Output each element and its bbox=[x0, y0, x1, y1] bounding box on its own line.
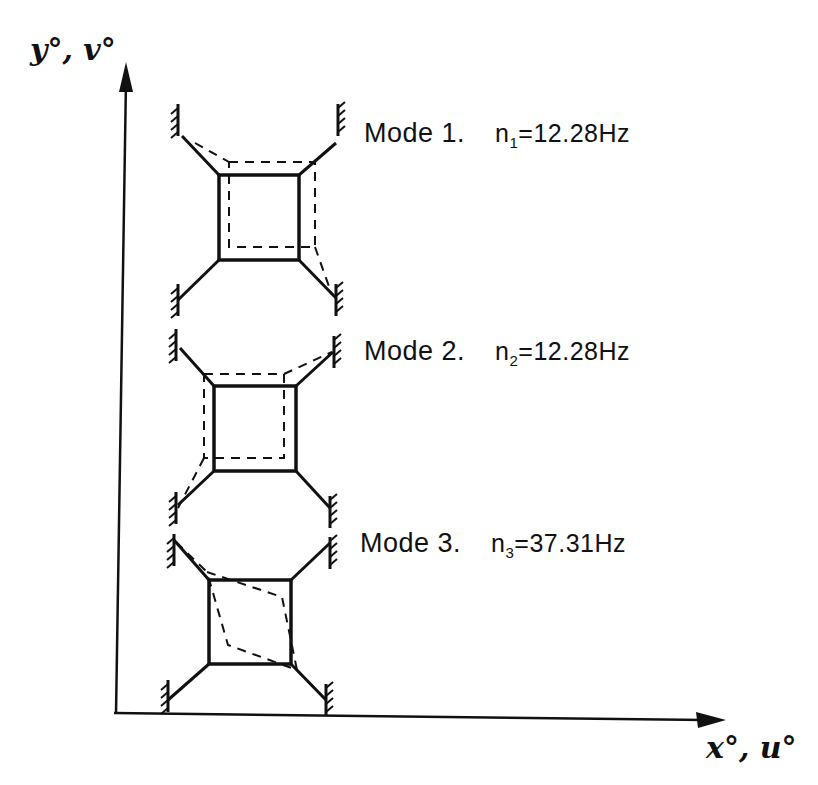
mode-3-name: Mode 3. bbox=[360, 528, 461, 558]
x-axis-arrowhead-icon bbox=[696, 712, 726, 728]
fixed-support-icon bbox=[171, 104, 178, 138]
mode-1-name: Mode 1. bbox=[364, 118, 465, 148]
mode-3-shape bbox=[161, 534, 337, 716]
fixed-support-icon bbox=[171, 284, 178, 318]
mode-2-name: Mode 2. bbox=[364, 336, 465, 366]
mode-3-label: Mode 3. n3=37.31Hz bbox=[360, 528, 626, 561]
mode-3-frequency: n3=37.31Hz bbox=[491, 529, 626, 557]
fixed-support-icon bbox=[326, 682, 333, 716]
mode-1-label: Mode 1. n1=12.28Hz bbox=[364, 118, 630, 151]
y-axis bbox=[116, 80, 126, 714]
fixed-support-icon bbox=[169, 329, 176, 363]
mode-1-shape bbox=[171, 102, 345, 318]
mode-2-frequency: n2=12.28Hz bbox=[495, 337, 630, 365]
y-axis-label: y°, v° bbox=[30, 32, 116, 67]
fixed-support-icon bbox=[336, 282, 343, 316]
fixed-support-icon bbox=[161, 680, 168, 714]
y-axis-arrowhead-icon bbox=[119, 62, 133, 92]
fixed-support-icon bbox=[167, 534, 174, 568]
mode-2-label: Mode 2. n2=12.28Hz bbox=[364, 336, 630, 369]
mode-1-frequency: n1=12.28Hz bbox=[495, 119, 630, 147]
x-axis bbox=[114, 713, 705, 720]
fixed-support-icon bbox=[338, 102, 345, 136]
fixed-support-icon bbox=[169, 492, 176, 526]
fixed-support-icon bbox=[330, 535, 337, 569]
mode-2-shape bbox=[169, 329, 341, 528]
fixed-support-icon bbox=[334, 334, 341, 368]
fixed-support-icon bbox=[330, 494, 337, 528]
x-axis-label: x°, u° bbox=[706, 730, 797, 765]
